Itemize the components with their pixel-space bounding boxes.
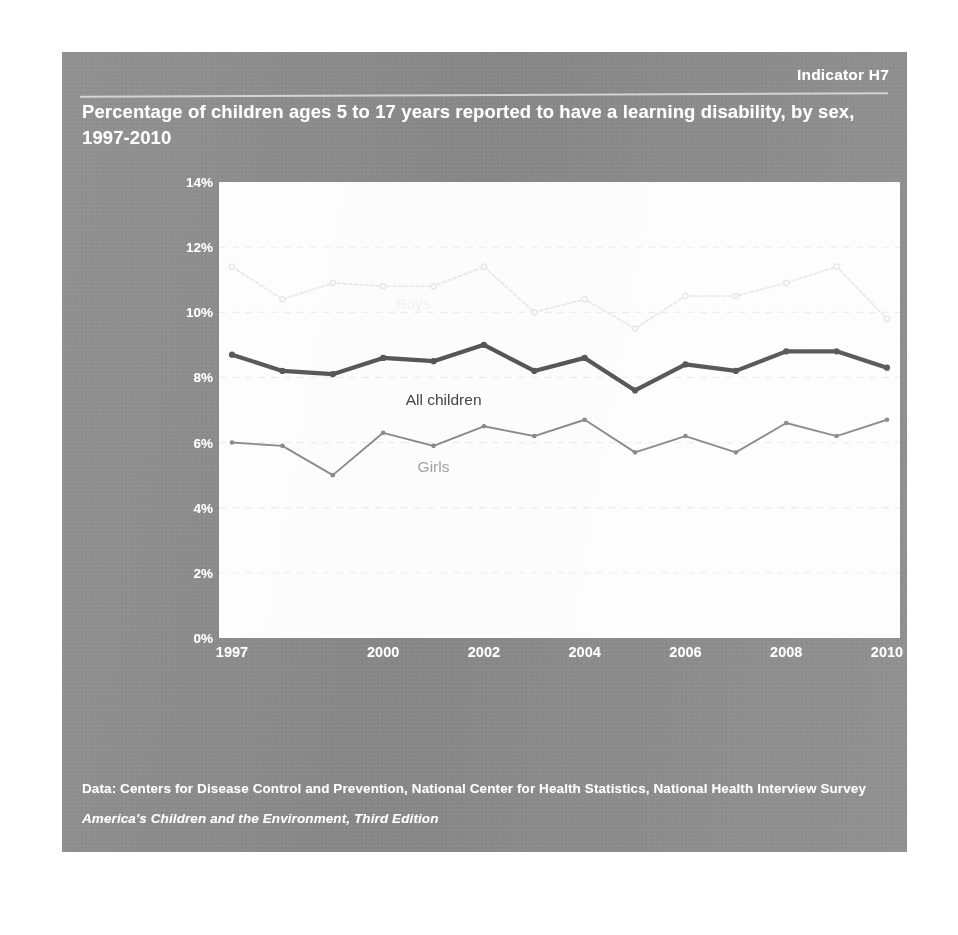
figure-canvas: Indicator H7 Percentage of children ages…: [0, 0, 958, 935]
chart-footer: Data: Centers for Disease Control and Pr…: [82, 779, 882, 826]
x-axis-tick-label: 2006: [669, 644, 701, 660]
y-axis-tick-label: 12%: [157, 240, 213, 255]
x-axis-tick-label: 1997: [216, 644, 248, 660]
plot-area: BoysAll childrenGirls: [219, 182, 900, 638]
line-chart-svg: [219, 182, 900, 638]
x-axis-tick-label: 2000: [367, 644, 399, 660]
indicator-panel: Indicator H7 Percentage of children ages…: [62, 52, 907, 852]
chart-plot-wrapper: 0%2%4%6%8%10%12%14% BoysAll childrenGirl…: [157, 172, 907, 642]
report-title-text: America's Children and the Environment, …: [82, 811, 882, 826]
indicator-badge: Indicator H7: [797, 66, 889, 84]
y-axis: 0%2%4%6%8%10%12%14%: [157, 182, 213, 638]
x-axis-tick-label: 2004: [569, 644, 601, 660]
x-axis-tick-label: 2008: [770, 644, 802, 660]
y-axis-tick-label: 10%: [157, 305, 213, 320]
title-divider: [80, 92, 888, 98]
x-axis: 1997200020022004200620082010: [219, 644, 900, 672]
y-axis-tick-label: 8%: [157, 370, 213, 385]
y-axis-tick-label: 6%: [157, 435, 213, 450]
x-axis-tick-label: 2010: [871, 644, 903, 660]
y-axis-tick-label: 0%: [157, 631, 213, 646]
x-axis-tick-label: 2002: [468, 644, 500, 660]
y-axis-tick-label: 4%: [157, 500, 213, 515]
y-axis-tick-label: 2%: [157, 565, 213, 580]
page-title: Percentage of children ages 5 to 17 year…: [82, 99, 872, 152]
y-axis-tick-label: 14%: [157, 175, 213, 190]
data-source-text: Data: Centers for Disease Control and Pr…: [82, 779, 882, 799]
